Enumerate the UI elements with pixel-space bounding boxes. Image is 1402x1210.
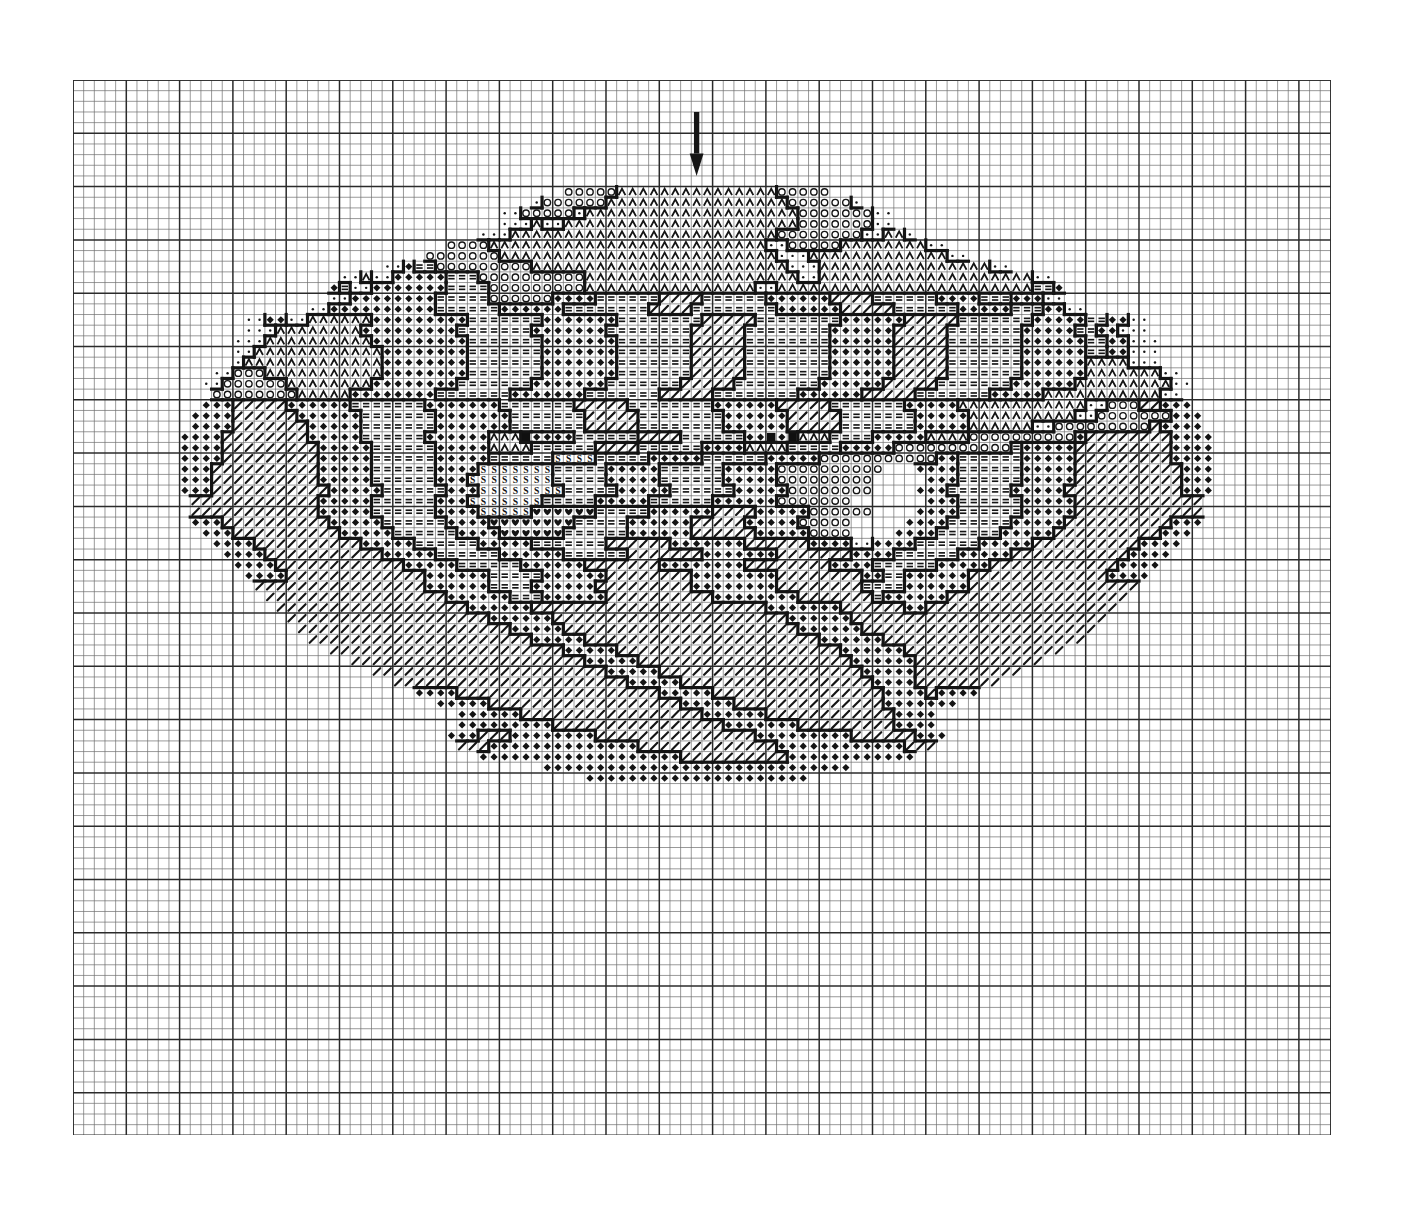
svg-text:S: S <box>502 485 507 496</box>
svg-text:S: S <box>491 496 496 507</box>
svg-text:S: S <box>513 474 518 485</box>
svg-text:S: S <box>513 496 518 507</box>
svg-text:S: S <box>534 485 539 496</box>
svg-text:S: S <box>491 485 496 496</box>
svg-text:S: S <box>523 474 528 485</box>
svg-text:S: S <box>481 474 486 485</box>
svg-text:S: S <box>523 485 528 496</box>
svg-text:S: S <box>502 474 507 485</box>
chart-canvas[interactable]: SSSSSSSSSSSSSSSSSSSSSSSSSSSSSSSSSSSSSSS <box>73 80 1331 1135</box>
svg-text:S: S <box>491 474 496 485</box>
svg-text:S: S <box>481 496 486 507</box>
svg-text:S: S <box>545 474 550 485</box>
svg-text:S: S <box>513 485 518 496</box>
page-root: Cross Stitch Chart SSSSSSSSSSSSSSSSSSSSS… <box>0 0 1402 1210</box>
page-title: Cross Stitch Chart <box>0 21 1 22</box>
svg-text:S: S <box>534 474 539 485</box>
svg-text:S: S <box>523 496 528 507</box>
svg-text:S: S <box>502 496 507 507</box>
cross-stitch-chart[interactable]: SSSSSSSSSSSSSSSSSSSSSSSSSSSSSSSSSSSSSSS <box>73 80 1331 1135</box>
svg-text:S: S <box>481 485 486 496</box>
